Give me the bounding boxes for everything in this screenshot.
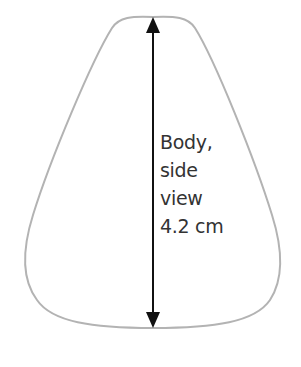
label-line-2: side (160, 156, 223, 184)
label-line-1: Body, (160, 128, 223, 156)
arrowhead-up-icon (146, 17, 160, 33)
label-line-3: view (160, 184, 223, 212)
height-dimension-arrow (146, 17, 160, 328)
label-line-4: 4.2 cm (160, 212, 223, 240)
dimension-label: Body, side view 4.2 cm (160, 128, 223, 240)
body-side-view-diagram (0, 0, 301, 367)
arrowhead-down-icon (146, 312, 160, 328)
